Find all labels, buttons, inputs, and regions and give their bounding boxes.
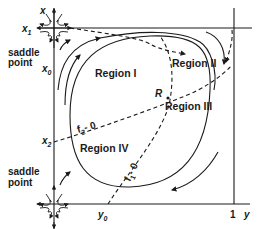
label-x2: x2 (41, 135, 52, 148)
trajectory-short-left (60, 40, 70, 50)
separatrix-dashed-top (70, 28, 185, 54)
phase-plane-diagram: x x1 x0 x2 y0 1 y saddle point saddle po… (0, 0, 262, 229)
tick-label-1: 1 (230, 209, 236, 220)
region-IV-label: Region IV (80, 142, 128, 154)
trajectory-left-outer (58, 38, 100, 90)
nullcline-f1 (108, 36, 172, 204)
axis-label-x: x (39, 5, 46, 16)
region-I-label: Region I (95, 67, 136, 79)
trajectory-left-inner (65, 55, 80, 105)
separatrix-dashed-right (226, 30, 232, 62)
label-y0: y0 (97, 209, 108, 222)
region-III-label: Region III (165, 100, 212, 112)
saddle-point-bottom-icon (37, 186, 68, 228)
axis-label-y: y (243, 209, 250, 220)
saddle-bottom-label-line1: saddle (8, 166, 40, 177)
nullcline-f1-label: f1- 0 (122, 161, 142, 184)
label-x1: x1 (21, 23, 32, 36)
saddle-top-label-line2: point (8, 57, 33, 68)
label-x0: x0 (41, 63, 52, 76)
point-R-label: R (155, 88, 163, 99)
nullcline-f2-label: f2- 0 (76, 119, 98, 137)
saddle-bottom-label-line2: point (8, 177, 33, 188)
region-II-label: Region II (172, 57, 216, 69)
trajectory-bottom-left (60, 172, 70, 185)
